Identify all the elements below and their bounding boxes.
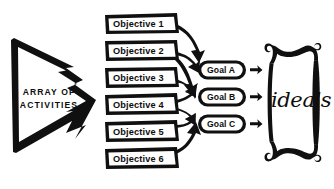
arrow-goal-c-to-ideals <box>250 119 263 128</box>
goal-capsule-c[interactable] <box>198 115 246 134</box>
arrow-goal-a-to-ideals <box>250 65 263 74</box>
objective-box-1[interactable] <box>105 13 179 34</box>
diagram-canvas: ARRAY OF ACTIVITIES Objective 1 Objectiv… <box>0 0 334 189</box>
goal-to-ideals-arrows <box>250 65 263 128</box>
objective-box-3[interactable] <box>105 67 179 88</box>
objective-box-4[interactable] <box>105 93 179 115</box>
goal-capsule-a[interactable] <box>198 61 246 80</box>
goal-capsule-group <box>198 61 246 134</box>
objective-box-5[interactable] <box>105 120 179 142</box>
diagram-artwork <box>0 0 334 189</box>
objective-box-group <box>105 13 179 169</box>
array-of-activities-arrow <box>11 38 96 153</box>
connector-arrows <box>174 24 205 154</box>
arrow-goal-b-to-ideals <box>250 92 263 101</box>
goal-capsule-b[interactable] <box>198 88 246 107</box>
ideals-cartouche-frame <box>264 43 321 162</box>
objective-box-2[interactable] <box>105 40 179 61</box>
objective-box-6[interactable] <box>105 147 179 169</box>
